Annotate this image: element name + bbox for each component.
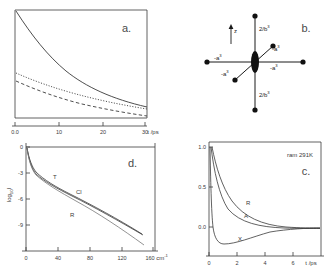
panel-c-curve-label-X: X bbox=[238, 236, 242, 242]
panel-d-ytick-0: 0 bbox=[20, 144, 23, 150]
panel-c-xtick-2: 4 bbox=[263, 260, 266, 266]
panel-c-label: c. bbox=[302, 165, 311, 177]
star-node-bottom bbox=[252, 107, 257, 112]
panel-d-curve-label-R: R bbox=[70, 212, 75, 218]
panel-d-curve-label-T: T bbox=[53, 174, 57, 180]
panel-a: 0.0 10 20 30 t /ps a. bbox=[0, 0, 166, 139]
panel-c-xaxis-label: t /ps bbox=[305, 260, 316, 266]
panel-b-label-bottom: 2/b3 bbox=[259, 90, 270, 98]
panel-b-z-label: z bbox=[234, 28, 237, 34]
panel-d-xaxis-ticks bbox=[26, 247, 153, 251]
panel-b-label-right: -a3 bbox=[270, 63, 278, 71]
panel-b-label: b. bbox=[301, 22, 310, 34]
panel-a-svg: 0.0 10 20 30 t /ps a. bbox=[0, 0, 166, 139]
panel-a-xtick-2: 20 bbox=[100, 129, 106, 135]
panel-c: 1.0 0.5 0.0 0 2 4 6 t /ps R A X ram 291K… bbox=[166, 139, 332, 277]
panel-c-xtick-3: 6 bbox=[291, 260, 294, 266]
panel-d-xtick-1: 40 bbox=[55, 255, 61, 261]
panel-a-xaxis bbox=[12, 122, 147, 126]
z-axis-arrow-icon bbox=[229, 24, 234, 44]
panel-d-xtick-2: 80 bbox=[87, 255, 93, 261]
panel-c-curve-X bbox=[210, 147, 320, 244]
panel-c-curve-label-A: A bbox=[244, 213, 248, 219]
panel-d-curve-Cl bbox=[27, 148, 143, 235]
panel-d-curve-T bbox=[27, 148, 142, 234]
star-node-lower-left bbox=[232, 77, 237, 82]
panel-d-svg: 0 -3 -6 -9 log10I 0 40 80 120 160 cm-1 T… bbox=[0, 139, 166, 277]
panel-c-ytick-2: 0.0 bbox=[198, 224, 206, 230]
panel-d-xtick-0: 0 bbox=[24, 255, 27, 261]
star-node-right bbox=[300, 59, 305, 64]
panel-b-label-upper-right: -a3 bbox=[272, 44, 280, 52]
panel-d-ytick-3: -9 bbox=[18, 222, 23, 228]
panel-c-curve-A bbox=[211, 147, 320, 229]
panel-c-ytick-0: 1.0 bbox=[198, 144, 206, 150]
panel-d-ytick-2: -6 bbox=[18, 196, 23, 202]
panel-c-xtick-0: 0 bbox=[207, 260, 210, 266]
panel-d-label: d. bbox=[128, 157, 137, 169]
panel-b-svg: z 2/b3 2/b3 -a3 -a3 -a3 -a3 b. bbox=[166, 0, 332, 139]
panel-d-frame bbox=[22, 143, 158, 251]
star-node-left bbox=[204, 59, 209, 64]
panel-d-xtick-3: 120 bbox=[117, 255, 126, 261]
panel-b: z 2/b3 2/b3 -a3 -a3 -a3 -a3 b. bbox=[166, 0, 332, 139]
panel-a-curve-dashed bbox=[16, 81, 147, 116]
panel-c-xtick-1: 2 bbox=[235, 260, 238, 266]
panel-c-svg: 1.0 0.5 0.0 0 2 4 6 t /ps R A X ram 291K… bbox=[166, 139, 332, 277]
panel-c-xaxis-ticks bbox=[209, 252, 293, 256]
panel-a-xtick-1: 10 bbox=[56, 129, 62, 135]
panel-d-curve-label-Cl: Cl bbox=[76, 189, 82, 195]
panel-a-xtick-0: 0.0 bbox=[11, 129, 19, 135]
panel-c-ytick-1: 0.5 bbox=[198, 184, 206, 190]
panel-b-label-lower-left: -a3 bbox=[221, 69, 229, 77]
panel-b-label-left: -a3 bbox=[214, 53, 222, 61]
star-center-ellipse bbox=[251, 51, 259, 73]
panel-c-curve-R bbox=[212, 147, 320, 228]
panel-d-xtick-4: 160 bbox=[145, 255, 154, 261]
panel-a-xaxis-label: t /ps bbox=[147, 129, 158, 135]
panel-c-frame bbox=[206, 142, 324, 256]
panel-d-curve-R bbox=[27, 148, 144, 245]
panel-c-annotation: ram 291K bbox=[287, 152, 313, 158]
panel-d-yaxis-label: log10I bbox=[6, 187, 14, 202]
panel-d-ytick-1: -3 bbox=[18, 170, 23, 176]
panel-d: 0 -3 -6 -9 log10I 0 40 80 120 160 cm-1 T… bbox=[0, 139, 166, 277]
panel-c-curve-label-R: R bbox=[246, 200, 251, 206]
star-node-top bbox=[252, 13, 257, 18]
panel-a-curve-dotted bbox=[16, 73, 147, 109]
panel-b-label-top: 2/b3 bbox=[259, 24, 270, 32]
panel-a-label: a. bbox=[122, 22, 131, 34]
